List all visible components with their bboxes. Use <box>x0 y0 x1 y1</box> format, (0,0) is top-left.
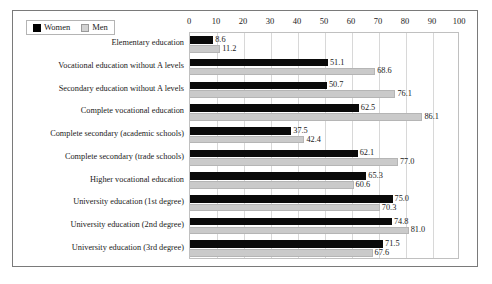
category-label: Higher vocational education <box>90 175 184 183</box>
category-label: University education (1st degree) <box>73 198 184 206</box>
bar-men <box>190 45 220 53</box>
plot-area: 8.611.251.168.650.776.162.586.137.542.46… <box>189 32 459 259</box>
category-label: University education (2nd degree) <box>70 221 184 229</box>
category-label: Vocational education without A levels <box>58 62 184 70</box>
bar-women <box>190 240 383 248</box>
x-axis-tick-70: 70 <box>374 17 383 26</box>
bar-value-label: 60.6 <box>356 181 371 189</box>
bar-women <box>190 172 366 180</box>
x-axis-tick-50: 50 <box>320 17 329 26</box>
bar-men <box>190 68 375 76</box>
bar-women <box>190 127 291 135</box>
bar-value-label: 51.1 <box>330 58 345 66</box>
bar-men <box>190 90 395 98</box>
legend-item-men: Men <box>81 23 108 32</box>
bar-men <box>190 181 354 189</box>
legend-label-men: Men <box>92 23 108 32</box>
bar-women <box>190 218 392 226</box>
x-axis-tick-90: 90 <box>428 17 437 26</box>
bar-value-label: 62.1 <box>360 149 375 157</box>
bar-value-label: 86.1 <box>424 113 439 121</box>
bar-value-label: 68.6 <box>377 67 392 75</box>
bar-men <box>190 227 409 235</box>
y-axis-category-labels: Elementary educationVocational education… <box>27 32 187 259</box>
bar-men <box>190 204 380 212</box>
x-axis-tick-60: 60 <box>347 17 356 26</box>
bar-value-label: 70.3 <box>382 203 397 211</box>
category-label: Secondary education without A levels <box>59 85 184 93</box>
x-axis-tick-30: 30 <box>266 17 275 26</box>
bar-value-label: 77.0 <box>400 158 415 166</box>
bar-men <box>190 158 398 166</box>
bar-women <box>190 36 213 44</box>
bar-value-label: 65.3 <box>368 172 383 180</box>
bar-value-label: 76.1 <box>397 90 412 98</box>
bar-women <box>190 82 327 90</box>
bar-women <box>190 59 328 67</box>
x-axis-tick-100: 100 <box>453 17 466 26</box>
legend-swatch-women-icon <box>33 24 41 32</box>
bar-value-label: 42.4 <box>306 135 321 143</box>
legend-label-women: Women <box>44 23 70 32</box>
bar-value-label: 50.7 <box>329 81 344 89</box>
bar-women <box>190 150 358 158</box>
bar-men <box>190 249 373 257</box>
bar-men <box>190 113 422 121</box>
x-axis-tick-20: 20 <box>239 17 248 26</box>
x-axis-tick-10: 10 <box>212 17 221 26</box>
bar-value-label: 81.0 <box>411 226 426 234</box>
x-axis-tick-labels: 0102030405060708090100 <box>189 17 459 31</box>
bar-chart-figure: Women Men 0102030405060708090100 Element… <box>12 10 478 267</box>
x-axis-tick-80: 80 <box>401 17 410 26</box>
bar-women <box>190 104 359 112</box>
bar-value-label: 67.6 <box>375 249 390 257</box>
category-label: Complete vocational education <box>81 107 184 115</box>
bars-layer: 8.611.251.168.650.776.162.586.137.542.46… <box>190 33 458 258</box>
x-axis-tick-40: 40 <box>293 17 302 26</box>
bar-men <box>190 136 304 144</box>
bar-women <box>190 195 393 203</box>
bar-value-label: 11.2 <box>222 45 236 53</box>
legend-item-women: Women <box>33 23 70 32</box>
x-axis-tick-0: 0 <box>187 17 191 26</box>
category-label: Complete secondary (trade schools) <box>65 153 184 161</box>
bar-value-label: 62.5 <box>361 104 376 112</box>
legend-swatch-men-icon <box>81 24 89 32</box>
category-label: Complete secondary (academic schools) <box>50 130 184 138</box>
category-label: Elementary education <box>111 39 184 47</box>
category-label: University education (3rd degree) <box>72 243 184 251</box>
bar-value-label: 75.0 <box>395 195 410 203</box>
bar-value-label: 74.8 <box>394 217 409 225</box>
